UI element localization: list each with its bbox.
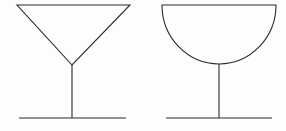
martini-bowl: [17, 5, 130, 65]
figure-container: Two stemware glass outlines Line drawing…: [0, 0, 286, 131]
martini-glass: [17, 5, 130, 118]
coupe-glass: [162, 5, 276, 118]
coupe-bowl: [162, 5, 276, 64]
glassware-diagram: Two stemware glass outlines Line drawing…: [0, 0, 286, 131]
